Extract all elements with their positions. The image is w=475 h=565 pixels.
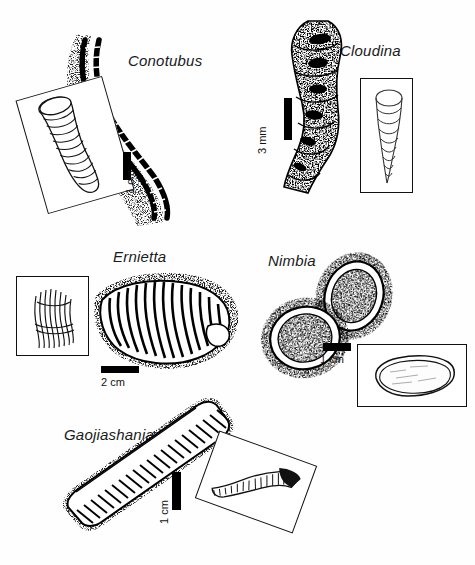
specimen-ernietta: [88, 266, 243, 381]
fossil-figure: Conotubus: [0, 0, 475, 565]
panel-gaojiashania: Gaojiashania: [0, 390, 340, 565]
scalebar-gaojiashania: [172, 472, 181, 510]
scalebar-label-gaojiashania: 1 cm: [158, 500, 170, 524]
scalebar-ernietta-bar: [101, 366, 139, 373]
inset-drawing-ernietta: [24, 282, 84, 352]
scalebar-nimbia: [323, 343, 351, 351]
inset-box-nimbia: [357, 344, 467, 407]
scalebar-label-conotubus: 1 cm: [124, 170, 136, 194]
scalebar-cloudina: [284, 98, 292, 140]
inset-box-cloudina: [360, 78, 413, 193]
inset-drawing-cloudina: [365, 85, 410, 189]
panel-ernietta: Ernietta: [0, 240, 240, 400]
inset-box-ernietta: [16, 276, 89, 356]
panel-nimbia: Nimbia 1 cm: [240, 240, 475, 410]
scalebar-label-cloudina: 3 mm: [256, 127, 268, 155]
panel-cloudina: Cloudina: [250, 0, 475, 235]
scalebar-label-ernietta: 2 cm: [101, 376, 125, 388]
inset-drawing-nimbia: [366, 350, 460, 403]
panel-conotubus: Conotubus: [0, 0, 240, 235]
taxon-label-ernietta: Ernietta: [113, 248, 166, 265]
scalebar-label-nimbia: 1 cm: [320, 353, 344, 365]
